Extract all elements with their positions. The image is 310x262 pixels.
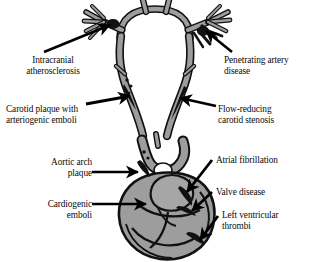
label-line-1: Aortic arch <box>24 157 92 168</box>
label-line-2: atherosclerosis <box>10 66 96 77</box>
embolus-dot <box>130 85 133 88</box>
embolus-dot <box>128 92 131 95</box>
label-line-1: Flow-reducing <box>218 104 308 115</box>
arrow-flow-reducing-carotid-stenosis <box>180 98 216 106</box>
label-flow-reducing-carotid-stenosis: Flow-reducing carotid stenosis <box>218 104 308 125</box>
circle-of-willis-lumen <box>120 9 190 38</box>
label-line-1: Carotid plaque with <box>6 104 102 115</box>
embolus-dot <box>125 78 128 81</box>
label-line-2: emboli <box>24 210 92 221</box>
label-line-1: Intracranial <box>10 55 96 66</box>
plaque-dot <box>146 156 149 159</box>
label-valve-disease: Valve disease <box>216 187 302 198</box>
label-line-1: Valve disease <box>216 187 302 198</box>
label-line-1: Cardiogenic <box>24 199 92 210</box>
label-line-2: carotid stenosis <box>218 115 308 126</box>
label-aortic-arch-plaque: Aortic arch plaque <box>24 157 92 178</box>
label-line-1: Left ventricular <box>222 210 308 221</box>
label-cardiogenic-emboli: Cardiogenic emboli <box>24 199 92 220</box>
arrow-carotid-plaque <box>86 96 130 104</box>
label-penetrating-artery-disease: Penetrating artery disease <box>224 55 310 76</box>
label-line-1: Atrial fibrillation <box>216 155 306 166</box>
label-line-1: Penetrating artery <box>224 55 310 66</box>
heart <box>119 172 215 259</box>
label-atrial-fibrillation: Atrial fibrillation <box>216 155 306 166</box>
label-line-2: plaque <box>24 168 92 179</box>
right-cortical-branches <box>208 6 230 31</box>
intracranial-atherosclerosis-site <box>107 19 120 29</box>
label-carotid-plaque-arteriogenic-emboli: Carotid plaque with arteriogenic emboli <box>6 104 102 125</box>
label-left-ventricular-thrombi: Left ventricular thrombi <box>222 210 308 231</box>
label-line-2: disease <box>224 66 310 77</box>
plaque-dot <box>142 150 146 154</box>
label-line-2: arteriogenic emboli <box>6 115 102 126</box>
label-line-2: thrombi <box>222 221 308 232</box>
arrow-intracranial-atherosclerosis <box>44 25 110 52</box>
label-intracranial-atherosclerosis: Intracranial atherosclerosis <box>10 55 96 76</box>
